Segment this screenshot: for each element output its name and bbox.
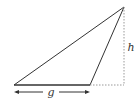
- arrow-left-icon: [14, 90, 19, 94]
- arrow-right-icon: [85, 90, 90, 94]
- triangle-diagram: g h: [0, 0, 138, 101]
- height-label: h: [127, 41, 134, 54]
- base-label: g: [47, 86, 54, 99]
